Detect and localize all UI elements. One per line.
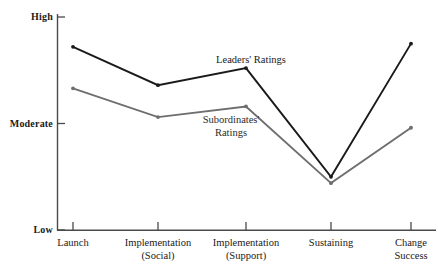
- data-point: [329, 181, 333, 185]
- line-chart-figure: High Moderate Low Launch Implementation …: [0, 0, 438, 273]
- y-label-moderate: Moderate: [0, 118, 53, 129]
- data-point: [156, 83, 160, 87]
- x-label-change-success-line2: Success: [366, 249, 438, 262]
- data-point: [156, 115, 160, 119]
- y-label-low: Low: [0, 224, 53, 235]
- x-label-implementation-support-line1: Implementation: [213, 237, 279, 248]
- annotation-subordinates-ratings-line2: Ratings: [215, 127, 247, 138]
- data-point: [71, 45, 75, 49]
- data-point: [71, 86, 75, 90]
- y-axis-ticks: [58, 17, 66, 230]
- x-label-implementation-social-line1: Implementation: [125, 237, 191, 248]
- annotation-leaders-ratings-text: Leaders' Ratings: [216, 54, 286, 65]
- data-point: [244, 105, 248, 109]
- x-label-implementation-support-line2: (Support): [191, 249, 301, 262]
- x-label-launch-line1: Launch: [57, 237, 89, 248]
- data-point: [329, 175, 333, 179]
- x-label-change-success-line1: Change: [395, 237, 427, 248]
- x-label-sustaining-line1: Sustaining: [309, 237, 353, 248]
- x-label-change-success: Change Success: [366, 236, 438, 262]
- annotation-subordinates-ratings-line1: Subordinates': [203, 114, 260, 125]
- x-axis-ticks: [73, 222, 411, 230]
- data-point: [409, 42, 413, 46]
- annotation-subordinates-ratings: Subordinates' Ratings: [184, 114, 278, 139]
- data-point: [409, 126, 413, 130]
- y-label-high: High: [0, 11, 53, 22]
- annotation-leaders-ratings: Leaders' Ratings: [205, 54, 297, 67]
- data-point: [244, 66, 248, 70]
